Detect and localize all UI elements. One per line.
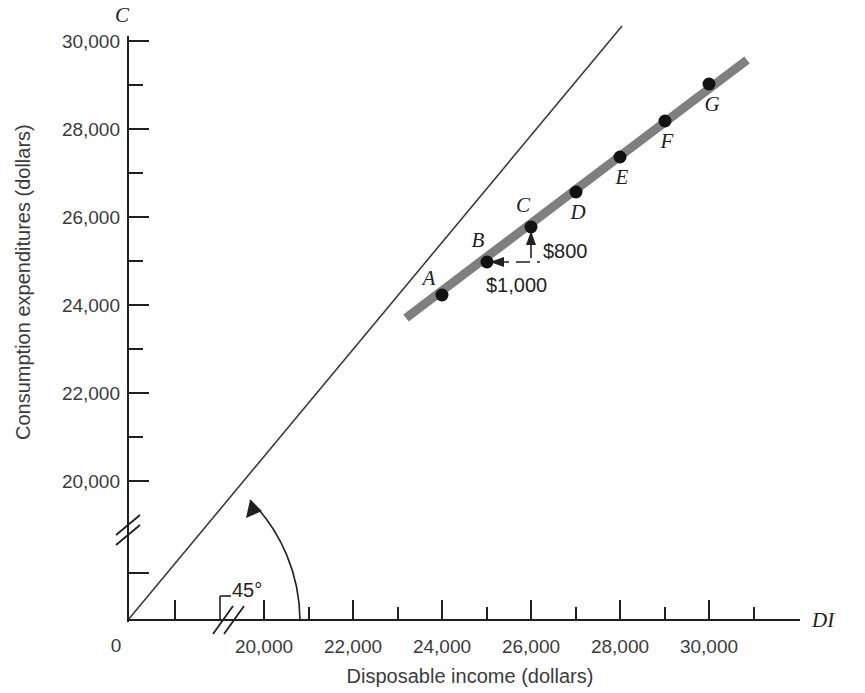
point-label: C [516, 193, 531, 217]
y-tick-label: 28,000 [62, 119, 120, 140]
point-label: B [472, 228, 485, 252]
data-point [525, 221, 538, 234]
chart-figure: C 30,000 28,000 26,000 24,000 22,000 20,… [0, 0, 865, 693]
forty-five-degree-line [128, 26, 622, 620]
run-label: $1,000 [486, 274, 547, 296]
y-axis-tick-labels: 30,000 28,000 26,000 24,000 22,000 20,00… [62, 31, 120, 492]
x-axis-title: Disposable income (dollars) [347, 665, 594, 687]
x-axis-tick-labels: 20,000 22,000 24,000 26,000 28,000 30,00… [235, 636, 738, 657]
angle-indicator [220, 500, 300, 620]
y-tick-label: 30,000 [62, 31, 120, 52]
x-axis-letter: DI [811, 608, 835, 632]
consumption-function-chart: C 30,000 28,000 26,000 24,000 22,000 20,… [0, 0, 865, 693]
data-point [570, 186, 583, 199]
y-axis-letter: C [115, 3, 130, 27]
x-tick-label: 28,000 [591, 636, 649, 657]
x-tick-label: 26,000 [502, 636, 560, 657]
origin-label: 0 [111, 635, 122, 656]
point-label: F [660, 129, 674, 153]
x-tick-label: 20,000 [235, 636, 293, 657]
x-tick-label: 24,000 [413, 636, 471, 657]
y-tick-label: 26,000 [62, 207, 120, 228]
x-tick-label: 30,000 [680, 636, 738, 657]
angle-label: 45° [232, 579, 262, 601]
y-tick-label: 24,000 [62, 295, 120, 316]
rise-label: $800 [543, 240, 588, 262]
x-tick-label: 22,000 [324, 636, 382, 657]
point-label: D [569, 200, 585, 224]
y-axis-title: Consumption expenditures (dollars) [12, 124, 34, 440]
point-label: A [421, 266, 436, 290]
data-point [481, 256, 494, 269]
y-tick-label: 20,000 [62, 471, 120, 492]
x-axis-ticks [175, 600, 754, 620]
data-point [703, 78, 716, 91]
y-tick-label: 22,000 [62, 383, 120, 404]
point-label: G [704, 92, 719, 116]
data-point [659, 115, 672, 128]
y-axis-ticks [128, 41, 149, 573]
data-point [436, 289, 449, 302]
data-point [614, 151, 627, 164]
point-label: E [615, 165, 629, 189]
